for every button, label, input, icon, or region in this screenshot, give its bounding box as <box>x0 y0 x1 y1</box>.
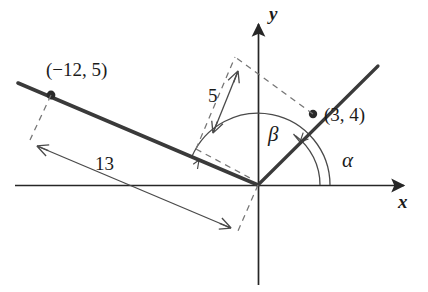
measurement-label-5: 5 <box>208 86 218 105</box>
angle-label-alpha: α <box>342 150 353 171</box>
measurement-label-13: 13 <box>95 154 114 173</box>
axis-label-y: y <box>269 4 277 23</box>
construction-dashes-13 <box>30 95 258 231</box>
diagram-canvas <box>0 0 428 292</box>
point-label-neg12-5: (−12, 5) <box>46 60 107 79</box>
construction-dashes-5 <box>196 57 313 178</box>
point-label-3-4: (3, 4) <box>324 105 365 124</box>
dimension-arrow-13 <box>37 146 231 228</box>
angle-label-beta: β <box>268 124 278 145</box>
axis-label-x: x <box>398 192 408 211</box>
trig-angle-diagram: y x (−12, 5) (3, 4) 5 13 α β <box>0 0 428 292</box>
terminal-ray-beta <box>18 83 258 185</box>
